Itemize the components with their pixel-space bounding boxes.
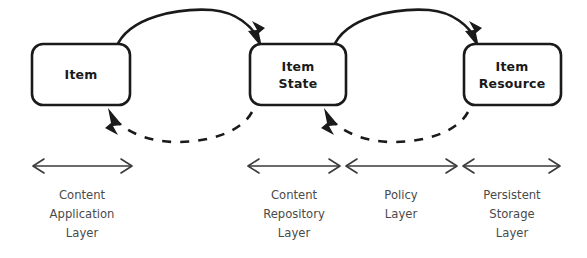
diagram-svg: Item Item State Item Resource (0, 0, 587, 258)
flow-item-state-to-item-resource-path (333, 10, 476, 48)
node-item[interactable]: Item (32, 44, 130, 105)
node-item-resource-label-line2: Resource (479, 76, 546, 91)
caption-persistent-storage-layer: Persistent Storage Layer (483, 188, 541, 240)
caption-content-repository-layer: Content Repository Layer (263, 188, 325, 240)
node-item-resource-label-line1: Item (496, 59, 529, 74)
caption-content-application-layer: Content Application Layer (50, 188, 115, 240)
flow-item-state-to-item-path (114, 112, 252, 142)
caption-4-line1: Persistent (483, 188, 541, 202)
flow-item-resource-to-item-state-arrowhead (321, 108, 338, 135)
caption-policy-layer: Policy Layer (384, 188, 417, 221)
caption-2-line2: Repository (263, 207, 325, 221)
span-content-repository-layer (248, 159, 340, 173)
node-item-state-label-line2: State (279, 76, 318, 91)
diagram-canvas: Item Item State Item Resource (0, 0, 587, 258)
caption-2-line3: Layer (278, 226, 311, 240)
caption-4-line3: Layer (496, 226, 529, 240)
caption-2-line1: Content (271, 188, 318, 202)
flow-item-to-item-state (116, 10, 265, 48)
node-item-state[interactable]: Item State (250, 44, 346, 105)
node-item-label-line1: Item (65, 67, 98, 82)
flow-item-resource-to-item-state-path (330, 112, 468, 142)
node-item-resource[interactable]: Item Resource (464, 44, 561, 105)
caption-3-line2: Layer (385, 207, 418, 221)
flow-item-state-to-item (105, 108, 252, 142)
node-item-state-label-line1: Item (282, 59, 315, 74)
flow-item-state-to-item-resource (333, 10, 482, 48)
flow-item-to-item-state-path (116, 10, 259, 48)
span-policy-layer (346, 159, 457, 173)
caption-3-line1: Policy (384, 188, 417, 202)
caption-1-line1: Content (59, 188, 106, 202)
caption-1-line2: Application (50, 207, 115, 221)
caption-4-line2: Storage (489, 207, 534, 221)
span-persistent-storage-layer (463, 159, 560, 173)
flow-item-resource-to-item-state (321, 108, 468, 142)
node-item-state-box[interactable] (250, 44, 346, 105)
flow-item-state-to-item-arrowhead (105, 108, 122, 135)
caption-1-line3: Layer (66, 226, 99, 240)
span-content-application-layer (33, 159, 132, 173)
node-item-resource-box[interactable] (464, 44, 561, 105)
